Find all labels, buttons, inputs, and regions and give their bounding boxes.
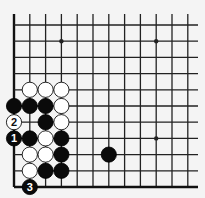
white-stone-circle: [38, 82, 53, 97]
black-stone-circle: [54, 163, 69, 178]
white-stone-circle: [22, 147, 37, 162]
white-stone: [22, 163, 37, 178]
star-point: [59, 39, 63, 43]
white-stone: [54, 82, 69, 97]
black-stone-circle: [101, 147, 116, 162]
star-point: [154, 39, 158, 43]
white-stone: [54, 98, 69, 113]
black-stone-circle: [38, 115, 53, 130]
black-stone-circle: [38, 163, 53, 178]
white-stone-circle: [54, 115, 69, 130]
black-stone-circle: [38, 98, 53, 113]
black-stone: [38, 115, 53, 130]
white-stone: [38, 82, 53, 97]
white-stone-move-2: 2: [6, 115, 21, 130]
white-stone-circle: [22, 82, 37, 97]
white-stone-circle: [54, 82, 69, 97]
black-stone: [101, 147, 116, 162]
white-stone: [22, 82, 37, 97]
white-stone: [22, 147, 37, 162]
white-stone-circle: [22, 163, 37, 178]
black-stone: [22, 98, 37, 113]
black-stone-circle: [54, 147, 69, 162]
white-stone: [38, 147, 53, 162]
black-stone-move-3: 3: [22, 179, 37, 194]
black-stone: [38, 98, 53, 113]
white-stone: [38, 131, 53, 146]
white-stone: [54, 115, 69, 130]
black-stone-circle: [6, 98, 21, 113]
black-stone: [22, 131, 37, 146]
white-stone-circle: [38, 131, 53, 146]
move-number-label: 1: [11, 132, 17, 144]
black-stone-move-1: 1: [6, 131, 21, 146]
move-number-label: 3: [27, 181, 33, 193]
black-stone: [54, 163, 69, 178]
star-point: [154, 136, 158, 140]
black-stone: [54, 131, 69, 146]
black-stone-circle: [54, 131, 69, 146]
black-stone: [6, 98, 21, 113]
black-stone: [54, 147, 69, 162]
white-stone-circle: [38, 147, 53, 162]
move-number-label: 2: [11, 116, 17, 128]
black-stone-circle: [22, 98, 37, 113]
black-stone-circle: [22, 131, 37, 146]
go-board-diagram: 213: [0, 0, 205, 198]
black-stone: [38, 163, 53, 178]
white-stone-circle: [54, 98, 69, 113]
